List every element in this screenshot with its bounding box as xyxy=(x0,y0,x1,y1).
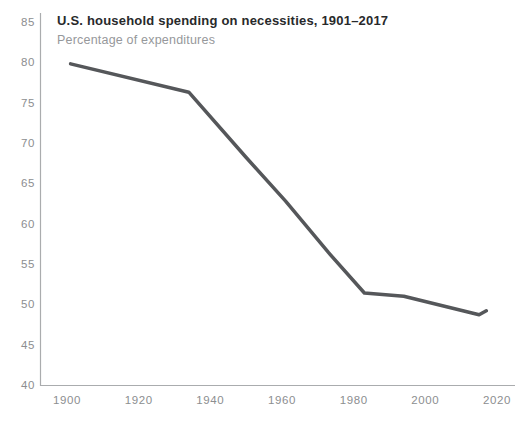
x-tick-label: 2020 xyxy=(483,394,511,406)
x-tick-label: 1980 xyxy=(340,394,368,406)
x-tick-label: 2000 xyxy=(411,394,439,406)
y-tick-label: 70 xyxy=(21,137,35,149)
x-tick-label: 1960 xyxy=(268,394,296,406)
spending-line xyxy=(71,64,487,315)
x-tick-label: 1900 xyxy=(53,394,81,406)
x-tick-label: 1940 xyxy=(196,394,224,406)
y-tick-label: 80 xyxy=(21,56,35,68)
y-tick-label: 50 xyxy=(21,298,35,310)
y-tick-label: 55 xyxy=(21,258,35,270)
chart: U.S. household spending on necessities, … xyxy=(0,0,520,421)
y-tick-label: 75 xyxy=(21,97,35,109)
y-tick-label: 40 xyxy=(21,379,35,391)
y-tick-label: 45 xyxy=(21,339,35,351)
plot-area: 8580757065605550454019001920194019601980… xyxy=(0,0,520,421)
y-tick-label: 65 xyxy=(21,177,35,189)
y-tick-label: 60 xyxy=(21,218,35,230)
y-tick-label: 85 xyxy=(21,16,35,28)
x-tick-label: 1920 xyxy=(125,394,153,406)
